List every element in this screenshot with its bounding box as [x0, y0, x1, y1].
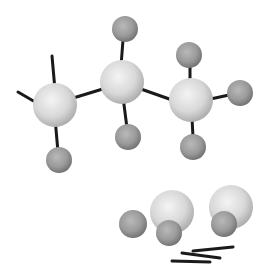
hydrogen-atom — [46, 147, 72, 173]
hydrogen-atom — [176, 42, 202, 68]
hydrogen-atom — [227, 80, 253, 106]
hydrogen-atom — [211, 211, 237, 237]
loose-bond-stick — [182, 253, 220, 258]
carbon-atom — [100, 60, 144, 104]
hydrogen-atom — [112, 16, 138, 42]
hydrogen-atom — [156, 220, 182, 246]
hydrogen-atom — [119, 210, 147, 238]
loose-bond-sticks — [172, 247, 233, 262]
loose-bond-stick — [172, 261, 210, 262]
carbon-atom — [169, 78, 213, 122]
molecule-diagram — [0, 0, 267, 276]
loose-bond-stick — [193, 247, 233, 251]
carbon-atom — [33, 83, 77, 127]
atoms-layer — [33, 16, 253, 173]
hydrogen-atom — [180, 134, 206, 160]
hydrogen-atom — [115, 124, 141, 150]
